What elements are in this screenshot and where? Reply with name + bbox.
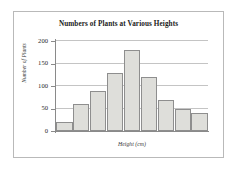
y-axis-tick-label-wrapper: 0	[26, 128, 48, 135]
y-axis-tick-label: 200	[26, 38, 48, 45]
bar	[73, 104, 89, 131]
y-axis-tick-label: 0	[26, 128, 48, 135]
x-axis-baseline	[55, 131, 209, 132]
bar	[90, 91, 106, 132]
y-axis-tick-label: 50	[26, 105, 48, 112]
x-axis-title: Height (cm)	[56, 141, 208, 147]
chart-title: Numbers of Plants at Various Heights	[13, 20, 224, 28]
bar	[141, 77, 157, 131]
bar	[158, 100, 174, 132]
chart-figure: Numbers of Plants at Various Heights Num…	[0, 0, 239, 175]
bar	[175, 109, 191, 132]
y-axis-tick	[51, 131, 56, 132]
bar	[191, 113, 207, 131]
y-axis-tick-label: 150	[26, 60, 48, 67]
plot-area	[56, 41, 208, 131]
y-axis-tick-label-wrapper: 200	[26, 38, 48, 45]
bar	[56, 122, 72, 131]
gridline	[56, 40, 208, 41]
y-axis-tick-label: 100	[26, 83, 48, 90]
y-axis-tick-label-wrapper: 100	[26, 83, 48, 90]
bar	[124, 50, 140, 131]
y-axis-tick-label-wrapper: 50	[26, 105, 48, 112]
y-axis-tick-label-wrapper: 150	[26, 60, 48, 67]
bar	[107, 73, 123, 132]
